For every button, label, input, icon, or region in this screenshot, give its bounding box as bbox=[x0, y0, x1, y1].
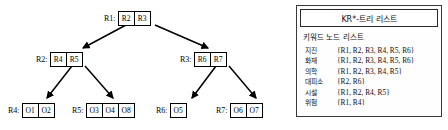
diagram-root: R1: R2 R3 R2: R4 R5 R3: R6 R7 R4: bbox=[0, 0, 448, 130]
tree-node-r4-label: R4: bbox=[8, 106, 20, 115]
edge-r1-r2 bbox=[83, 25, 126, 48]
tree-node-r4-entries: O1 O2 bbox=[22, 103, 55, 118]
node-list-value: {R1, R2, R3, R4, R5, R6} bbox=[337, 56, 414, 65]
tree-node-r5[interactable]: R5: O3 O4 O8 bbox=[72, 103, 135, 118]
edge-r2-r5 bbox=[85, 66, 113, 98]
kr-tree-diagram: R1: R2 R3 R2: R4 R5 R3: R6 R7 R4: bbox=[0, 0, 292, 130]
edge-r3-r6 bbox=[192, 66, 216, 98]
tree-node-r7[interactable]: R7: O6 O7 bbox=[216, 103, 263, 118]
edge-r2-r4 bbox=[47, 66, 72, 98]
entry-cell: O8 bbox=[119, 104, 134, 117]
keyword-row: 의학 {R1, R2, R3, R4, R5} bbox=[305, 66, 438, 76]
tree-node-r2-label: R2: bbox=[36, 55, 48, 64]
tree-node-r2-entries: R4 R5 bbox=[50, 52, 83, 67]
keyword-label: 지진 bbox=[305, 45, 337, 55]
edge-r1-r3 bbox=[155, 25, 208, 48]
tree-node-r6-label: R6: bbox=[156, 106, 168, 115]
entry-cell: R3 bbox=[135, 12, 150, 25]
node-list-value: {R2, R6} bbox=[337, 77, 365, 86]
entry-cell: O4 bbox=[103, 104, 119, 117]
tree-node-r7-label: R7: bbox=[216, 106, 228, 115]
tree-node-r4[interactable]: R4: O1 O2 bbox=[8, 103, 55, 118]
entry-cell: O5 bbox=[171, 104, 186, 117]
tree-node-r6-entries: O5 bbox=[170, 103, 187, 118]
entry-cell: R2 bbox=[119, 12, 135, 25]
tree-node-r3-label: R3: bbox=[180, 55, 192, 64]
node-list-value: {R1, R2, R3, R4, R5, R6} bbox=[337, 46, 414, 55]
tree-node-r1[interactable]: R1: R2 R3 bbox=[104, 11, 151, 26]
entry-cell: R5 bbox=[67, 53, 82, 66]
node-list-value: {R1, R2, R4, R5} bbox=[337, 88, 390, 97]
keyword-rows: 지진 {R1, R2, R3, R4, R5, R6} 화재 {R1, R2, … bbox=[305, 45, 438, 107]
keyword-row: 대피소 {R2, R6} bbox=[305, 76, 438, 86]
keyword-label: 시설 bbox=[305, 87, 337, 97]
tree-node-r6[interactable]: R6: O5 bbox=[156, 103, 187, 118]
entry-cell: R6 bbox=[195, 53, 211, 66]
tree-node-r5-entries: O3 O4 O8 bbox=[86, 103, 135, 118]
panel-title-box: KR*-트리 리스트 bbox=[300, 9, 438, 27]
keyword-label: 의학 bbox=[305, 66, 337, 76]
node-list-value: {R1, R4} bbox=[337, 98, 365, 107]
keyword-label: 화재 bbox=[305, 55, 337, 65]
entry-cell: R7 bbox=[211, 53, 226, 66]
panel-title: KR*-트리 리스트 bbox=[341, 13, 396, 24]
edge-r3-r7 bbox=[229, 66, 256, 98]
entry-cell: O1 bbox=[23, 104, 39, 117]
node-list-value: {R1, R2, R3, R4, R5} bbox=[337, 67, 402, 76]
panel-subtitle: 키워드 노드 리스트 bbox=[303, 31, 438, 42]
tree-node-r1-label: R1: bbox=[104, 14, 116, 23]
tree-node-r7-entries: O6 O7 bbox=[230, 103, 263, 118]
keyword-row: 화재 {R1, R2, R3, R4, R5, R6} bbox=[305, 55, 438, 65]
entry-cell: O6 bbox=[231, 104, 247, 117]
keyword-row: 위험 {R1, R4} bbox=[305, 97, 438, 107]
keyword-row: 시설 {R1, R2, R4, R5} bbox=[305, 87, 438, 97]
tree-node-r1-entries: R2 R3 bbox=[118, 11, 151, 26]
tree-node-r2[interactable]: R2: R4 R5 bbox=[36, 52, 83, 67]
entry-cell: O7 bbox=[247, 104, 262, 117]
entry-cell: R4 bbox=[51, 53, 67, 66]
keyword-label: 위험 bbox=[305, 97, 337, 107]
keyword-row: 지진 {R1, R2, R3, R4, R5, R6} bbox=[305, 45, 438, 55]
tree-node-r3-entries: R6 R7 bbox=[194, 52, 227, 67]
entry-cell: O2 bbox=[39, 104, 54, 117]
tree-node-r5-label: R5: bbox=[72, 106, 84, 115]
keyword-label: 대피소 bbox=[305, 76, 337, 86]
keyword-node-list-panel: KR*-트리 리스트 키워드 노드 리스트 지진 {R1, R2, R3, R4… bbox=[296, 5, 442, 117]
tree-node-r3[interactable]: R3: R6 R7 bbox=[180, 52, 227, 67]
entry-cell: O3 bbox=[87, 104, 103, 117]
